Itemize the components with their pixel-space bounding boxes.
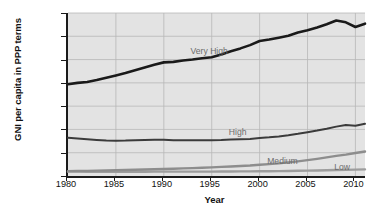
x-tick-mark [114, 177, 115, 181]
x-tick-mark [353, 177, 354, 181]
chart-figure: GNI per capita in PPP terms Year $0$5,00… [0, 0, 369, 207]
y-axis-title: GNI per capita in PPP terms [12, 5, 23, 155]
y-tick-mark [61, 129, 66, 130]
y-tick-mark [61, 13, 66, 14]
series-label-low: Low [334, 162, 350, 172]
series-line-medium [68, 152, 365, 172]
y-tick-mark [61, 36, 66, 37]
x-tick-mark [258, 177, 259, 181]
chart-svg [68, 13, 365, 176]
plot-area [66, 13, 365, 178]
y-tick-mark [61, 153, 66, 154]
x-tick-mark [210, 177, 211, 181]
series-label-high: High [229, 127, 247, 137]
y-tick-mark [61, 106, 66, 107]
x-tick-mark [162, 177, 163, 181]
series-label-medium: Medium [267, 156, 298, 166]
x-tick-label: 2010 [330, 179, 369, 189]
series-label-very-high: Very High [191, 46, 228, 56]
x-tick-mark [66, 177, 67, 181]
x-axis-title: Year [66, 194, 363, 205]
y-tick-mark [61, 83, 66, 84]
y-tick-mark [61, 60, 66, 61]
x-tick-mark [306, 177, 307, 181]
series-line-high [68, 124, 365, 141]
